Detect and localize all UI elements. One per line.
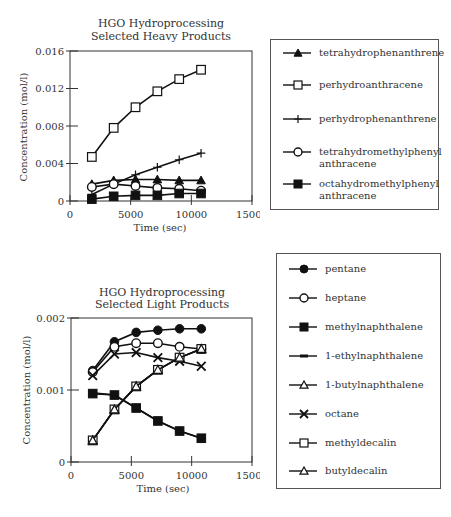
- square-filled-marker-icon: [300, 323, 308, 331]
- legend-label: 1-ethylnaphthalene: [325, 350, 423, 362]
- heavy-products-legend: tetrahydrophenanthreneperhydroanthracene…: [270, 39, 439, 210]
- legend-label: tetrahydromethylphenylanthracene: [319, 146, 442, 170]
- circle-open-marker-icon: [294, 148, 302, 156]
- legend-symbol-icon: [289, 320, 317, 334]
- circle-filled-marker-icon: [197, 325, 206, 334]
- x-axis-label: Time (sec): [137, 483, 190, 494]
- circle-filled-marker-icon: [154, 326, 163, 335]
- circle-open-marker-icon: [300, 294, 308, 302]
- y-tick-label: 0.002: [36, 313, 65, 324]
- light-products-legend: pentaneheptanemethylnaphthalene1-ethylna…: [276, 253, 441, 489]
- circle-open-marker-icon: [175, 343, 184, 352]
- series-1-ethylnaphthalene: [88, 391, 205, 439]
- y-axis-label: Concentration (mol/l): [21, 336, 32, 445]
- legend-symbol-icon: [283, 177, 311, 191]
- x-tick-label: 5000: [119, 470, 144, 481]
- legend-label: 1-butylnaphthalene: [325, 379, 424, 391]
- legend-label: tetrahydrophenanthrene: [319, 47, 444, 59]
- legend-symbol-icon: [289, 291, 317, 305]
- x-tick-label: 15000: [236, 470, 260, 481]
- legend-symbol-icon: [289, 349, 317, 363]
- square-open-marker-icon: [300, 439, 308, 447]
- legend-symbol-icon: [289, 378, 317, 392]
- legend-label: perhydrophenanthrene: [319, 113, 437, 125]
- legend-symbol-icon: [283, 46, 311, 60]
- circle-open-marker-icon: [154, 339, 163, 348]
- legend-symbol-icon: [283, 78, 311, 92]
- light-products-chart: HGO Hydroprocessing Selected Light Produ…: [0, 0, 260, 517]
- dash-marker-icon: [110, 394, 119, 397]
- chart-title-line2: Selected Light Products: [95, 298, 230, 311]
- circle-open-marker-icon: [132, 339, 141, 348]
- dash-marker-icon: [197, 437, 206, 440]
- x-tick-label: 10000: [176, 470, 208, 481]
- legend-symbol-icon: [289, 436, 317, 450]
- dash-marker-icon: [175, 430, 184, 433]
- plot-frame: [71, 318, 252, 462]
- legend-symbol-icon: [283, 112, 311, 126]
- legend-symbol-icon: [283, 145, 311, 159]
- legend-symbol-icon: [289, 407, 317, 421]
- circle-filled-marker-icon: [300, 265, 308, 273]
- plus-marker-icon: [294, 115, 302, 123]
- series-heptane: [88, 339, 205, 376]
- dash-marker-icon: [132, 407, 141, 410]
- legend-label: perhydroanthracene: [319, 79, 423, 91]
- square-open-marker-icon: [294, 81, 302, 89]
- legend-label: heptane: [325, 292, 366, 304]
- x-tick-label: 0: [68, 470, 74, 481]
- square-filled-marker-icon: [294, 180, 302, 188]
- dash-marker-icon: [88, 391, 97, 394]
- circle-filled-marker-icon: [132, 328, 141, 337]
- dash-marker-icon: [154, 419, 163, 422]
- dash-marker-icon: [300, 355, 308, 358]
- y-tick-label: 0.001: [36, 385, 65, 396]
- legend-label: octane: [325, 408, 359, 420]
- legend-symbol-icon: [289, 464, 317, 478]
- legend-label: methyldecalin: [325, 437, 396, 449]
- y-tick-label: 0: [59, 457, 65, 468]
- legend-symbol-icon: [289, 262, 317, 276]
- legend-label: methylnaphthalene: [325, 321, 423, 333]
- circle-filled-marker-icon: [175, 325, 184, 334]
- light-products-plot: HGO Hydroprocessing Selected Light Produ…: [0, 0, 260, 517]
- series-pentane: [88, 325, 205, 375]
- legend-label: pentane: [325, 263, 366, 275]
- legend-label: octahydromethylphenylanthracene: [319, 178, 439, 202]
- legend-label: butyldecalin: [325, 465, 387, 477]
